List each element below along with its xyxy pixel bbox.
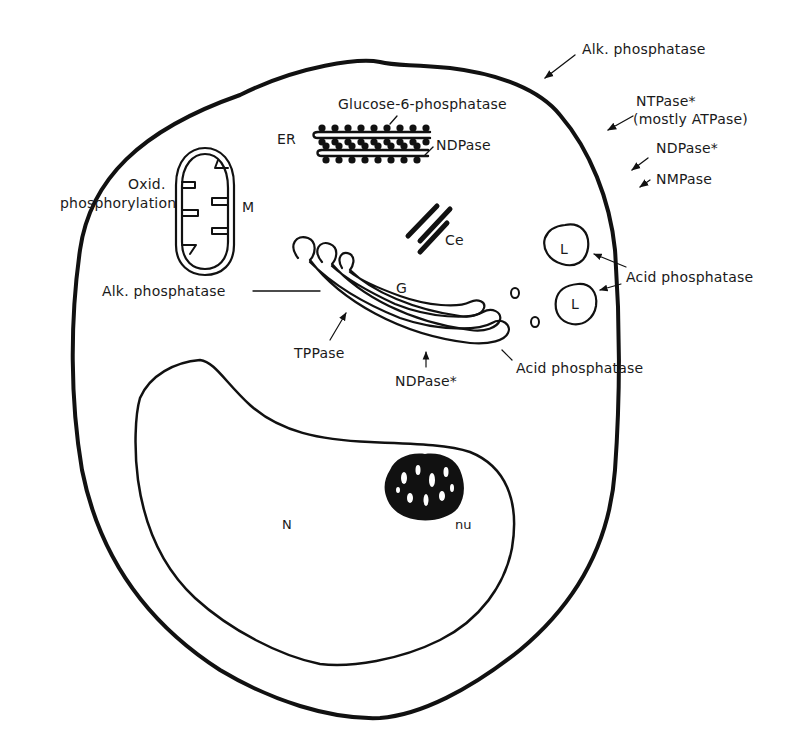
mitochondrion	[176, 148, 234, 275]
glucose6-pointer	[390, 116, 397, 124]
ntpase-pointer	[608, 116, 633, 130]
cell-diagram: N nu M Oxid. phosphorylation ER Glucose-…	[0, 0, 812, 753]
golgi-label: G	[396, 280, 407, 296]
tppase-label: TPPase	[293, 345, 345, 361]
nmpase-pointer	[640, 180, 650, 187]
er-cisterna	[314, 132, 431, 138]
golgi-acid-phosphatase-label: Acid phosphatase	[516, 360, 643, 376]
ribosome	[322, 156, 329, 163]
ribosome	[374, 142, 381, 149]
ribosome	[322, 142, 329, 149]
pm-ndpase-label: NDPase*	[656, 140, 718, 156]
ribosome	[344, 124, 351, 131]
ribosome	[374, 156, 381, 163]
ribosome	[335, 156, 342, 163]
pm-alk-pointer	[545, 55, 575, 78]
ribosome	[348, 142, 355, 149]
golgi-alk-phosphatase-label: Alk. phosphatase	[102, 283, 226, 299]
ribosome	[361, 142, 368, 149]
ribosome	[409, 124, 416, 131]
nucleus-label: N	[282, 517, 292, 532]
ribosome	[396, 124, 403, 131]
vesicle	[531, 317, 539, 327]
ntpase-label: NTPase*	[636, 93, 696, 109]
lysosome-label: L	[571, 296, 579, 312]
ribosome	[348, 156, 355, 163]
er-label: ER	[277, 131, 296, 147]
ribosome	[370, 124, 377, 131]
plasma-membrane	[73, 61, 619, 718]
ribosome	[318, 124, 325, 131]
nucleolus	[385, 454, 464, 521]
oxid-label: Oxid.	[128, 176, 166, 192]
ribosome	[400, 156, 407, 163]
er-cisterna	[318, 150, 429, 156]
er-ndpase-label: NDPase	[436, 137, 491, 153]
phosphorylation-label: phosphorylation	[60, 195, 176, 211]
golgi-acid-pointer	[502, 350, 512, 360]
ribosome	[387, 142, 394, 149]
mitochondrion-label: M	[242, 199, 254, 215]
lysosome-acid-phosphatase-label: Acid phosphatase	[626, 269, 753, 285]
ribosome	[422, 124, 429, 131]
glucose6-label: Glucose-6-phosphatase	[338, 96, 507, 112]
tppase-pointer	[330, 313, 346, 340]
golgi-ndpase-label: NDPase*	[395, 373, 457, 389]
endoplasmic-reticulum	[314, 124, 431, 163]
ntpase-note-label: (mostly ATPase)	[633, 111, 748, 127]
pm-ndpase-pointer	[632, 158, 648, 170]
ribosome	[422, 138, 429, 145]
centriole-label: Ce	[445, 232, 464, 248]
ribosome	[361, 156, 368, 163]
ribosome	[383, 124, 390, 131]
nucleolus-label: nu	[455, 517, 471, 532]
ribosome	[387, 156, 394, 163]
ribosome	[400, 142, 407, 149]
nucleus-envelope	[136, 360, 515, 665]
ribosome	[357, 124, 364, 131]
lysosome-label: L	[560, 241, 568, 257]
ribosome	[413, 156, 420, 163]
ribosome	[335, 142, 342, 149]
ribosome	[331, 124, 338, 131]
lysosome-pointer-1	[594, 254, 626, 267]
ribosome	[413, 142, 420, 149]
vesicle	[511, 288, 519, 298]
pm-alk-phosphatase-label: Alk. phosphatase	[582, 41, 706, 57]
centriole	[408, 206, 450, 252]
nmpase-label: NMPase	[656, 171, 712, 187]
